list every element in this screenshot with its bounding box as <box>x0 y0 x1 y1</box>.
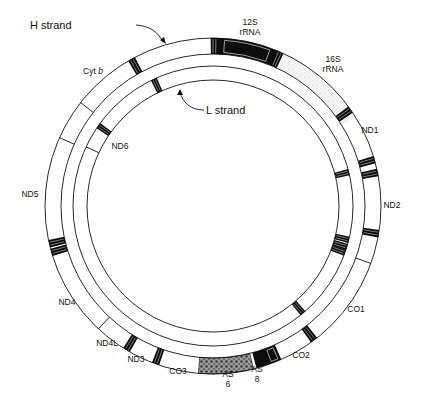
gene-label-as8: AS8 <box>251 364 263 384</box>
gene-label-nd1: ND1 <box>361 125 378 135</box>
mtdna-diagram: H strand L strand 12SrRNA16SrRNAND1ND2CO… <box>0 0 427 403</box>
h-strand-callout: H strand <box>30 19 166 44</box>
gene-label-12s: 12SrRNA <box>240 17 261 37</box>
h-gene-divider <box>356 258 371 263</box>
gene-label-co3: CO3 <box>169 366 187 376</box>
l-strand-label: L strand <box>206 104 245 116</box>
gene-label-nd3: ND3 <box>127 354 144 364</box>
gene-label-co2: CO2 <box>292 350 310 360</box>
gene-label-nd2: ND2 <box>383 200 400 210</box>
l-gene-divider <box>86 147 99 153</box>
h-strand-arrow <box>136 25 163 42</box>
gene-label-as6: AS6 <box>222 369 234 389</box>
h-trna-band <box>152 348 164 366</box>
h-trna-band <box>123 334 137 351</box>
l-trna-band <box>151 78 162 93</box>
h-trna-band <box>128 57 142 75</box>
gene-label-nd5: ND5 <box>21 189 38 199</box>
h-strand-gene-dividers <box>60 103 371 329</box>
gene-label-co1: CO1 <box>347 304 365 314</box>
gene-label-nd6: ND6 <box>111 141 128 151</box>
h-gene-divider <box>81 103 94 113</box>
h-trna-band <box>211 38 219 54</box>
h-ring-inner-edge <box>61 54 365 358</box>
gene-label-cytb: Cyt b <box>83 66 103 76</box>
gene-label-nd4l: ND4L <box>96 338 118 348</box>
h-gene-divider <box>98 317 109 329</box>
h-strand-gene-blocks <box>198 38 355 374</box>
gene-labels: 12SrRNA16SrRNAND1ND2CO1CO2AS8AS6CO3ND3ND… <box>21 17 400 389</box>
l-strand-callout: L strand <box>177 89 245 116</box>
l-strand-gene-dividers <box>86 147 99 153</box>
gene-label-nd4: ND4 <box>58 297 75 307</box>
gene-label-16s: 16SrRNA <box>323 54 344 74</box>
l-strand-arrow <box>180 93 204 110</box>
l-ring-inner-edge <box>87 80 339 332</box>
h-gene-divider <box>60 138 75 145</box>
h-strand-label: H strand <box>30 19 72 31</box>
l-strand-arrowhead-icon <box>177 89 183 95</box>
